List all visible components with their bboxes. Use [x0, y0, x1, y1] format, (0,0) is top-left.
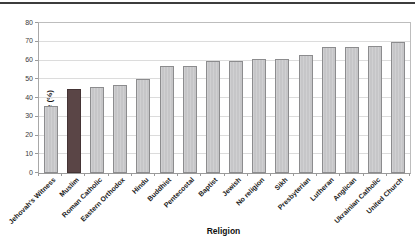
- x-tick-mark: [363, 173, 364, 176]
- bar-jehovah-s-witness: [44, 106, 58, 174]
- y-tick-mark: [35, 116, 38, 117]
- y-tick-mark: [35, 97, 38, 98]
- bar-eastern-orthodox: [113, 85, 127, 173]
- x-tick-mark: [154, 173, 155, 176]
- x-tick-mark: [61, 173, 62, 176]
- x-category-label: Baptist: [197, 176, 219, 198]
- x-tick-mark: [409, 173, 410, 176]
- bar-ukrainian-catholic: [368, 46, 382, 174]
- y-tick-label: 20: [7, 131, 33, 138]
- x-category-label: Roman Catholic: [60, 176, 103, 219]
- y-tick-mark: [35, 135, 38, 136]
- y-tick-mark: [35, 22, 38, 23]
- x-tick-mark: [131, 173, 132, 176]
- x-tick-mark: [84, 173, 85, 176]
- x-tick-mark: [293, 173, 294, 176]
- bar-lutheran: [322, 47, 336, 173]
- y-tick-label: 10: [7, 150, 33, 157]
- y-tick-mark: [35, 60, 38, 61]
- bar-sikh: [275, 59, 289, 173]
- bar-chart-plot-area: Response (%): [38, 22, 411, 174]
- y-tick-label: 30: [7, 112, 33, 119]
- bar-jewish: [229, 61, 243, 174]
- bar-united-church: [391, 42, 405, 173]
- bar-roman-catholic: [90, 87, 104, 173]
- bar-baptist: [206, 61, 220, 174]
- x-tick-mark: [316, 173, 317, 176]
- x-category-label: Eastern Orthodox: [79, 176, 126, 223]
- x-tick-mark: [177, 173, 178, 176]
- y-tick-label: 0: [7, 169, 33, 176]
- y-tick-label: 40: [7, 94, 33, 101]
- x-tick-mark: [108, 173, 109, 176]
- figure-panel: Response (%) Religion 01020304050607080J…: [0, 0, 415, 242]
- x-tick-mark: [339, 173, 340, 176]
- bar-anglican: [345, 47, 359, 173]
- x-tick-mark: [247, 173, 248, 176]
- figure-top-rule: [0, 2, 415, 4]
- x-tick-mark: [224, 173, 225, 176]
- x-tick-mark: [200, 173, 201, 176]
- bar-no-religion: [252, 59, 266, 173]
- bar-hindu: [136, 79, 150, 173]
- y-tick-label: 50: [7, 75, 33, 82]
- y-tick-label: 80: [7, 19, 33, 26]
- x-category-label: Jehovah's Witness: [7, 176, 56, 225]
- x-category-label: Hindu: [130, 176, 149, 195]
- bar-presbyterian: [299, 55, 313, 173]
- y-tick-label: 60: [7, 56, 33, 63]
- y-tick-label: 70: [7, 37, 33, 44]
- x-tick-mark: [386, 173, 387, 176]
- bar-muslim: [67, 89, 81, 173]
- x-category-label: Muslim: [58, 176, 80, 198]
- x-axis-title: Religion: [38, 226, 409, 236]
- x-category-label: Lutheran: [309, 176, 335, 202]
- gridline: [39, 41, 410, 42]
- y-tick-mark: [35, 153, 38, 154]
- y-tick-mark: [35, 78, 38, 79]
- x-category-label: Jewish: [221, 176, 242, 197]
- x-category-label: Sikh: [273, 176, 288, 191]
- bar-pentecostal: [183, 66, 197, 173]
- bar-buddhist: [160, 66, 174, 173]
- y-tick-mark: [35, 41, 38, 42]
- x-tick-mark: [270, 173, 271, 176]
- x-tick-mark: [38, 173, 39, 176]
